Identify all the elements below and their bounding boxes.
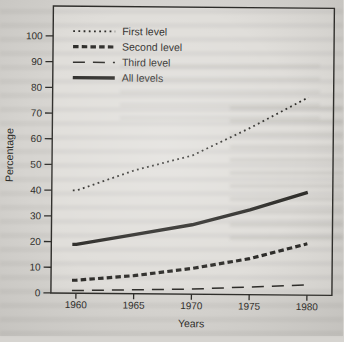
x-axis-tick-label: 1965 — [122, 300, 145, 311]
y-axis-tick-label: 90 — [31, 56, 43, 67]
x-axis-tick-label: 1970 — [180, 300, 203, 311]
legend-label: Third level — [122, 56, 171, 68]
legend-label: Second level — [122, 41, 182, 54]
scanned-figure: 0102030405060708090100196019651970197519… — [0, 0, 344, 337]
y-axis-tick-label: 80 — [31, 82, 43, 93]
y-axis-tick-label: 70 — [31, 107, 43, 118]
y-axis-tick-label: 10 — [29, 262, 41, 273]
legend-label: First level — [122, 25, 167, 37]
x-axis-tick-label: 1975 — [238, 301, 261, 312]
y-axis-tick-label: 40 — [30, 184, 42, 195]
legend-label: All levels — [122, 72, 164, 84]
x-axis-tick-label: 1980 — [296, 301, 319, 312]
y-axis-tick-label: 20 — [30, 236, 42, 247]
line-chart: 0102030405060708090100196019651970197519… — [0, 0, 344, 337]
x-axis-tick-label: 1960 — [65, 299, 88, 310]
y-axis-tick-label: 50 — [30, 159, 42, 170]
x-axis-title: Years — [178, 317, 205, 329]
y-axis-tick-label: 60 — [31, 133, 43, 144]
y-axis-title: Percentage — [3, 128, 15, 182]
plot-frame — [51, 6, 334, 295]
y-axis-tick-label: 30 — [30, 210, 42, 221]
y-axis-tick-label: 0 — [35, 287, 41, 298]
y-axis-tick-label: 100 — [26, 30, 43, 41]
